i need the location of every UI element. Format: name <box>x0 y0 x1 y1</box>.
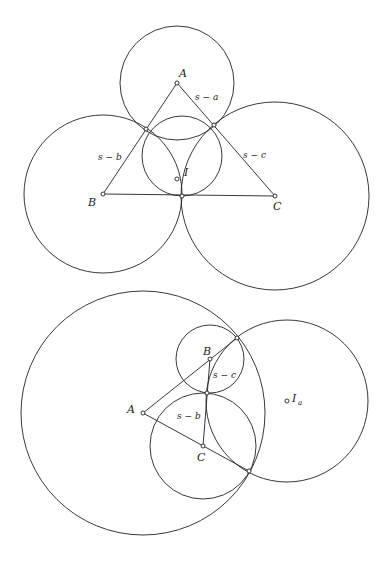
figure-bottom: A B C I a s − c s − b <box>21 291 368 535</box>
label-A-bottom: A <box>126 403 135 416</box>
point-A-top <box>175 81 179 85</box>
point-C-top <box>273 194 277 198</box>
tangent-point-AC-top <box>212 123 216 127</box>
label-s-minus-b-top: s − b <box>98 152 122 162</box>
label-B-top: B <box>87 196 96 209</box>
point-A-bottom <box>141 411 145 415</box>
label-Ia-subscript-bottom: a <box>298 399 302 407</box>
tangent-point-BC-top <box>180 194 184 198</box>
side-AC-bottom <box>143 413 249 471</box>
label-s-minus-b-bottom: s − b <box>177 411 201 421</box>
tangent-point-T2-bottom <box>205 391 209 395</box>
side-BC-bottom <box>203 359 210 446</box>
figure-top: A B C I s − a s − b s − c <box>24 26 369 290</box>
label-s-minus-c-bottom: s − c <box>213 370 236 380</box>
point-B-top <box>101 192 105 196</box>
tangent-point-T1-bottom <box>235 336 239 340</box>
tangent-point-T3-bottom <box>247 469 251 473</box>
diagram-canvas: A B C I s − a s − b s − c A B C I a s − … <box>0 0 389 562</box>
label-C-bottom: C <box>197 451 206 464</box>
tangent-point-AB-top <box>144 127 148 131</box>
point-Ia-bottom <box>285 399 289 403</box>
label-s-minus-c-top: s − c <box>243 150 266 160</box>
point-C-bottom <box>201 444 205 448</box>
label-s-minus-a-top: s − a <box>195 92 218 102</box>
label-B-bottom: B <box>202 345 211 358</box>
side-AC-top <box>177 83 275 196</box>
label-C-top: C <box>273 200 282 213</box>
label-I-top: I <box>183 166 189 179</box>
point-I-top <box>175 177 179 181</box>
label-Ia-bottom: I <box>291 392 297 405</box>
label-A-top: A <box>178 67 187 80</box>
